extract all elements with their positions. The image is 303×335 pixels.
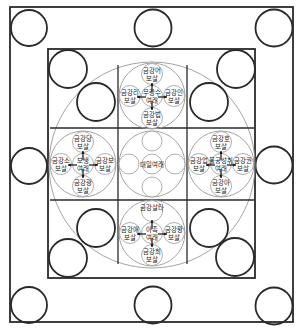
center-label: 대일여래	[140, 160, 164, 169]
mandala-diagram: 대일여래 금강어보살금강법보살금강리보살금강인보살무량수여래금강당보살금강광보살…	[0, 0, 303, 335]
cluster-bottom: 금강살타금강희보살금강애보살금강왕보살아촉여래	[119, 200, 185, 266]
cluster-top: 금강어보살금강법보살금강리보살금강인보살무량수여래	[119, 63, 185, 129]
cluster-left: 금강당보살금강광보살금강소보살금강보보살보생여래	[50, 131, 116, 197]
cluster-right: 금강호보살금강아보살금강업보살금강권보살불공성취여래	[188, 131, 254, 197]
bodhisattva-north: 금강살타	[140, 203, 164, 212]
center-cluster: 대일여래	[119, 131, 185, 197]
